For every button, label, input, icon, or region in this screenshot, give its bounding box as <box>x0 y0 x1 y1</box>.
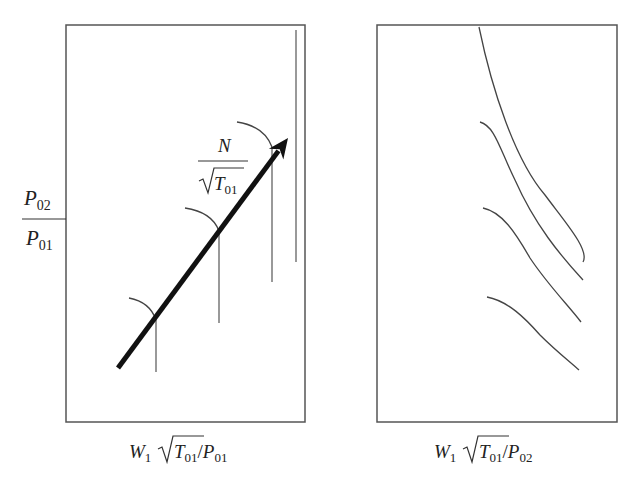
svg-text:W1: W1 <box>434 441 456 465</box>
surge-arc-2 <box>185 208 219 231</box>
speed-denominator-t: T01 <box>214 173 238 197</box>
surge-arc-3 <box>237 122 272 147</box>
right-x-axis-label: W1 T01/P02 <box>434 436 532 465</box>
left-panel: N T01 <box>66 25 305 422</box>
svg-text:T01/P02: T01/P02 <box>479 441 532 465</box>
speed-parameter-label: N T01 <box>198 135 248 197</box>
diagram-canvas: N T01 P02 P01 W1 T01/P01 W1 T01/P02 <box>0 0 637 492</box>
y-label-denominator: P01 <box>25 226 53 253</box>
y-label-numerator: P02 <box>23 186 51 213</box>
efficiency-curve-2 <box>480 122 583 280</box>
svg-text:W1: W1 <box>129 441 151 465</box>
increasing-speed-arrow-shaft <box>118 151 278 368</box>
y-axis-label: P02 P01 <box>22 186 66 253</box>
left-x-axis-label: W1 T01/P01 <box>129 436 227 465</box>
left-plot-frame <box>66 25 305 422</box>
right-plot-frame <box>377 25 617 422</box>
right-panel <box>377 25 617 422</box>
efficiency-curve-4 <box>487 297 579 370</box>
svg-text:T01/P01: T01/P01 <box>174 441 227 465</box>
efficiency-curve-3 <box>483 208 581 322</box>
efficiency-curve-1 <box>479 27 584 262</box>
speed-numerator: N <box>217 135 232 156</box>
surge-arc-1 <box>129 298 156 320</box>
